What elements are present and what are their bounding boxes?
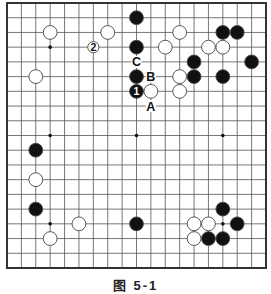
black-stone bbox=[187, 55, 201, 69]
black-stone bbox=[202, 232, 216, 246]
white-stone bbox=[43, 26, 57, 40]
white-stone bbox=[173, 84, 187, 98]
star-point bbox=[48, 134, 52, 138]
white-stone bbox=[202, 40, 216, 54]
move-number: 1 bbox=[134, 85, 140, 97]
white-stone bbox=[173, 70, 187, 84]
black-stone bbox=[29, 202, 43, 216]
black-stone bbox=[230, 26, 244, 40]
black-stone bbox=[130, 40, 144, 54]
black-stone bbox=[130, 11, 144, 25]
white-stone bbox=[187, 217, 201, 231]
marker-a: A bbox=[146, 100, 155, 114]
white-stone bbox=[187, 232, 201, 246]
white-stone bbox=[202, 217, 216, 231]
star-point bbox=[221, 134, 225, 138]
black-stone bbox=[216, 26, 230, 40]
white-stone: 2 bbox=[88, 41, 99, 53]
go-board: 12 ABC bbox=[0, 0, 271, 272]
white-stone bbox=[101, 26, 115, 40]
star-point bbox=[221, 222, 225, 226]
figure-caption: 图 5-1 bbox=[0, 275, 271, 294]
white-stone bbox=[173, 26, 187, 40]
black-stone bbox=[130, 70, 144, 84]
marker-c: C bbox=[132, 55, 141, 69]
white-stone bbox=[29, 70, 43, 84]
white-stone bbox=[72, 217, 86, 231]
black-stone bbox=[216, 202, 230, 216]
stones-layer: 12 bbox=[29, 11, 259, 246]
black-stone bbox=[187, 70, 201, 84]
black-stone bbox=[130, 217, 144, 231]
black-stone bbox=[230, 217, 244, 231]
white-stone bbox=[144, 84, 158, 98]
star-point bbox=[135, 134, 139, 138]
white-stone bbox=[43, 232, 57, 246]
white-stone bbox=[158, 40, 172, 54]
star-point bbox=[48, 45, 52, 49]
black-stone bbox=[245, 55, 259, 69]
black-stone bbox=[29, 143, 43, 157]
black-stone: 1 bbox=[130, 84, 144, 98]
marker-b: B bbox=[146, 70, 155, 84]
black-stone bbox=[216, 232, 230, 246]
star-point bbox=[48, 222, 52, 226]
black-stone bbox=[216, 70, 230, 84]
move-number: 2 bbox=[90, 41, 96, 53]
white-stone bbox=[216, 40, 230, 54]
white-stone bbox=[29, 173, 43, 187]
